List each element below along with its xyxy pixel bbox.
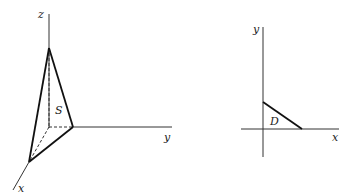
surface-label-s: S [55,104,63,117]
left-figure-3d: z S y x [13,8,172,195]
edge-x-y [29,127,73,162]
x-label-2d: x [332,131,339,144]
hypotenuse [263,102,302,129]
right-figure-2d: y D x [241,23,339,157]
z-label: z [37,8,44,21]
y-label-3d: y [163,131,171,144]
region-label-d: D [269,115,279,128]
y-label-2d: y [252,23,260,36]
diagram-canvas: z S y x y D x [0,0,356,196]
x-label-3d: x [18,182,25,195]
